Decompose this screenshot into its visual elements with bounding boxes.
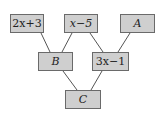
- node-label: x−5: [70, 17, 92, 30]
- node-3x-minus-1: 3x−1: [92, 52, 129, 71]
- edge-x5-to-b: [62, 33, 72, 52]
- node-b: B: [38, 52, 73, 71]
- node-x-minus-5: x−5: [64, 14, 98, 33]
- node-2x-plus-3: 2x+3: [10, 14, 44, 33]
- edge-b-to-c: [63, 71, 77, 90]
- edge-2x3-to-b: [41, 33, 50, 52]
- node-c: C: [65, 90, 101, 109]
- node-label: A: [134, 17, 142, 30]
- edge-x5-to-3x1: [90, 33, 103, 52]
- edge-3x1-to-c: [91, 71, 102, 90]
- node-label: 2x+3: [12, 17, 41, 30]
- node-label: C: [79, 93, 87, 106]
- node-a: A: [120, 14, 155, 33]
- node-label: B: [51, 55, 59, 68]
- node-label: 3x−1: [96, 55, 125, 68]
- edge-a-to-3x1: [118, 33, 130, 52]
